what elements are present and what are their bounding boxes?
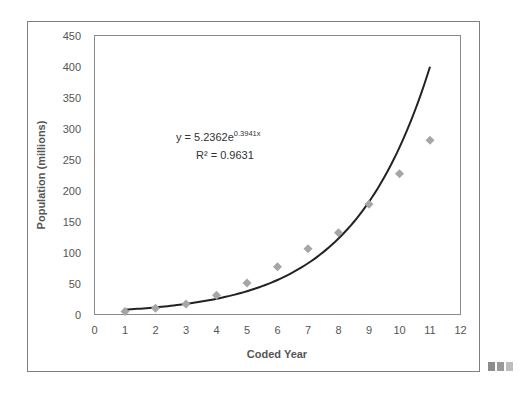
r-squared-label: R² = 0.9631 — [196, 149, 254, 161]
y-axis-title: Population (millions) — [35, 120, 47, 229]
y-tick-label: 450 — [63, 30, 81, 42]
more-dot — [506, 362, 513, 371]
more-options-icon[interactable] — [488, 362, 513, 371]
plot-area — [95, 36, 461, 315]
x-tick-label: 2 — [152, 324, 158, 336]
y-tick-label: 250 — [63, 154, 81, 166]
x-tick-label: 0 — [91, 324, 97, 336]
y-tick-label: 350 — [63, 92, 81, 104]
x-tick-label: 10 — [393, 324, 405, 336]
more-dot — [497, 362, 504, 371]
y-tick-label: 50 — [69, 278, 81, 290]
y-tick-label: 300 — [63, 123, 81, 135]
y-tick-label: 200 — [63, 185, 81, 197]
x-tick-label: 7 — [305, 324, 311, 336]
x-tick-label: 3 — [183, 324, 189, 336]
x-tick-label: 6 — [274, 324, 280, 336]
y-tick-label: 400 — [63, 61, 81, 73]
y-tick-label: 0 — [75, 309, 81, 321]
x-tick-label: 11 — [424, 324, 435, 336]
x-tick-label: 9 — [366, 324, 372, 336]
x-tick-label: 8 — [335, 324, 341, 336]
y-tick-label: 100 — [63, 247, 81, 259]
x-tick-label: 4 — [213, 324, 219, 336]
x-axis-title: Coded Year — [247, 348, 308, 360]
x-tick-label: 12 — [454, 324, 466, 336]
y-tick-label: 150 — [63, 216, 81, 228]
x-tick-label: 1 — [122, 324, 128, 336]
x-tick-label: 5 — [244, 324, 250, 336]
scatter-chart: 050100150200250300350400450 012345678910… — [0, 0, 528, 396]
more-dot — [488, 362, 495, 371]
